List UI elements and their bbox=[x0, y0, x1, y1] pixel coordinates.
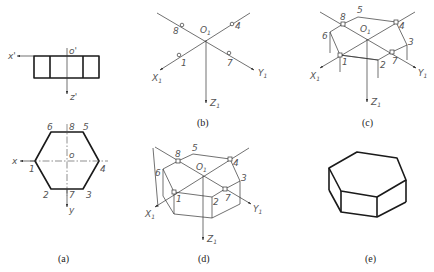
vertex-1-label: 1 bbox=[29, 164, 35, 174]
point-5-label: 5 bbox=[357, 5, 363, 15]
origin-label: O1 bbox=[196, 162, 207, 173]
point-7-label: 7 bbox=[225, 193, 231, 203]
point-4-label: 4 bbox=[399, 21, 405, 31]
point-6-label: 6 bbox=[155, 168, 161, 178]
vertex-5-label: 5 bbox=[83, 122, 89, 132]
point-2-label: 2 bbox=[213, 197, 219, 207]
point-4-label: 4 bbox=[235, 21, 241, 31]
origin-prime-label: o' bbox=[69, 46, 77, 56]
vertex-7-label: 7 bbox=[69, 190, 75, 200]
point-7-label: 7 bbox=[227, 58, 233, 68]
point-7-label: 7 bbox=[392, 56, 398, 66]
caption-a: (a) bbox=[58, 253, 69, 265]
caption-e: (e) bbox=[365, 253, 376, 265]
vertex-8-label: 8 bbox=[69, 122, 75, 132]
point-8-label: 8 bbox=[175, 149, 181, 159]
o-label: o bbox=[69, 150, 75, 160]
point-1-label: 1 bbox=[181, 58, 187, 68]
point-5-label: 5 bbox=[192, 143, 198, 153]
caption-c: (c) bbox=[362, 117, 373, 129]
x-label: x bbox=[11, 156, 18, 166]
panel-b: 8 4 1 7 O1 X1 Y1 Z1 (b) bbox=[151, 13, 267, 129]
z1-label: Z1 bbox=[209, 98, 220, 109]
point-3-label: 3 bbox=[408, 37, 414, 47]
origin-label: O1 bbox=[360, 24, 371, 35]
vertex-3-label: 3 bbox=[86, 190, 92, 200]
point-4-label: 4 bbox=[233, 158, 239, 168]
z1-label: Z1 bbox=[206, 234, 217, 245]
point-1-label: 1 bbox=[342, 57, 348, 67]
isometric-construction-figure: x' o' z' x y o 1 2 3 4 5 6 7 8 (a) bbox=[0, 0, 434, 272]
origin-label: O1 bbox=[200, 25, 211, 36]
x1-label: X1 bbox=[144, 209, 155, 220]
panel-a: x' o' z' x y o 1 2 3 4 5 6 7 8 (a) bbox=[7, 46, 108, 265]
point-3-label: 3 bbox=[241, 173, 247, 183]
y-label: y bbox=[68, 205, 75, 215]
caption-d: (d) bbox=[198, 253, 210, 265]
point-2-label: 2 bbox=[380, 60, 386, 70]
point-8-label: 8 bbox=[173, 26, 179, 36]
vertex-2-label: 2 bbox=[43, 190, 49, 200]
panel-d: 5 8 4 6 3 1 7 2 O1 X1 Y1 Z1 (d) bbox=[144, 143, 262, 265]
panel-e: (e) bbox=[329, 152, 406, 265]
top-view: x y o 1 2 3 4 5 6 7 8 bbox=[11, 122, 108, 215]
panel-c: 5 8 4 6 3 1 7 2 O1 X1 Y1 Z1 (c) bbox=[309, 5, 427, 129]
y1-label: Y1 bbox=[418, 68, 427, 79]
y1-label: Y1 bbox=[253, 204, 262, 215]
vertex-4-label: 4 bbox=[100, 164, 106, 174]
point-8-label: 8 bbox=[340, 12, 346, 22]
y1-label: Y1 bbox=[258, 68, 267, 79]
front-view: x' o' z' bbox=[7, 46, 99, 102]
caption-b: (b) bbox=[197, 117, 209, 129]
point-6-label: 6 bbox=[322, 31, 328, 41]
x1-label: X1 bbox=[151, 73, 162, 84]
point-1-label: 1 bbox=[176, 194, 182, 204]
z-prime-label: z' bbox=[69, 92, 77, 102]
vertex-6-label: 6 bbox=[47, 122, 53, 132]
x1-label: X1 bbox=[309, 71, 320, 82]
x-prime-label: x' bbox=[7, 51, 16, 61]
z1-label: Z1 bbox=[370, 97, 381, 108]
